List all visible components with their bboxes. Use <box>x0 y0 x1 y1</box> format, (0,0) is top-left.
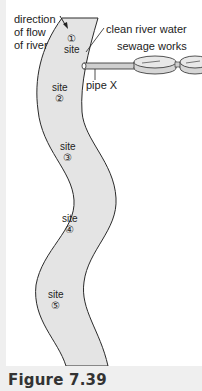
pipe-x-label: pipe X <box>86 79 117 92</box>
direction-line-1: direction <box>14 13 56 26</box>
site-3-label: site <box>60 141 76 152</box>
river-diagram <box>0 0 202 366</box>
site-3-number: ③ <box>60 152 76 163</box>
figure-caption: Figure 7.39 <box>8 371 107 389</box>
pipe-x <box>84 63 136 69</box>
site-2-number: ② <box>52 93 68 104</box>
sewage-tank-2 <box>180 56 202 74</box>
sewage-tank-1 <box>134 56 176 74</box>
site-1-label: site <box>64 44 80 55</box>
site-5: site ⑤ <box>48 289 64 311</box>
river <box>36 18 117 366</box>
site-4-number: ④ <box>62 224 78 235</box>
direction-line-3: of river <box>14 39 56 52</box>
site-3: site ③ <box>60 141 76 163</box>
site-5-label: site <box>48 289 64 300</box>
site-2-label: site <box>52 82 68 93</box>
direction-line-2: of flow <box>14 26 56 39</box>
site-5-number: ⑤ <box>48 300 64 311</box>
site-4-label: site <box>62 213 78 224</box>
site-4: site ④ <box>62 213 78 235</box>
sewage-works-label: sewage works <box>117 40 187 53</box>
direction-label: direction of flow of river <box>14 13 56 52</box>
site-1-number: ① <box>64 33 80 44</box>
site-1: ① site <box>64 33 80 55</box>
clean-water-label: clean river water <box>106 23 187 36</box>
site-2: site ② <box>52 82 68 104</box>
